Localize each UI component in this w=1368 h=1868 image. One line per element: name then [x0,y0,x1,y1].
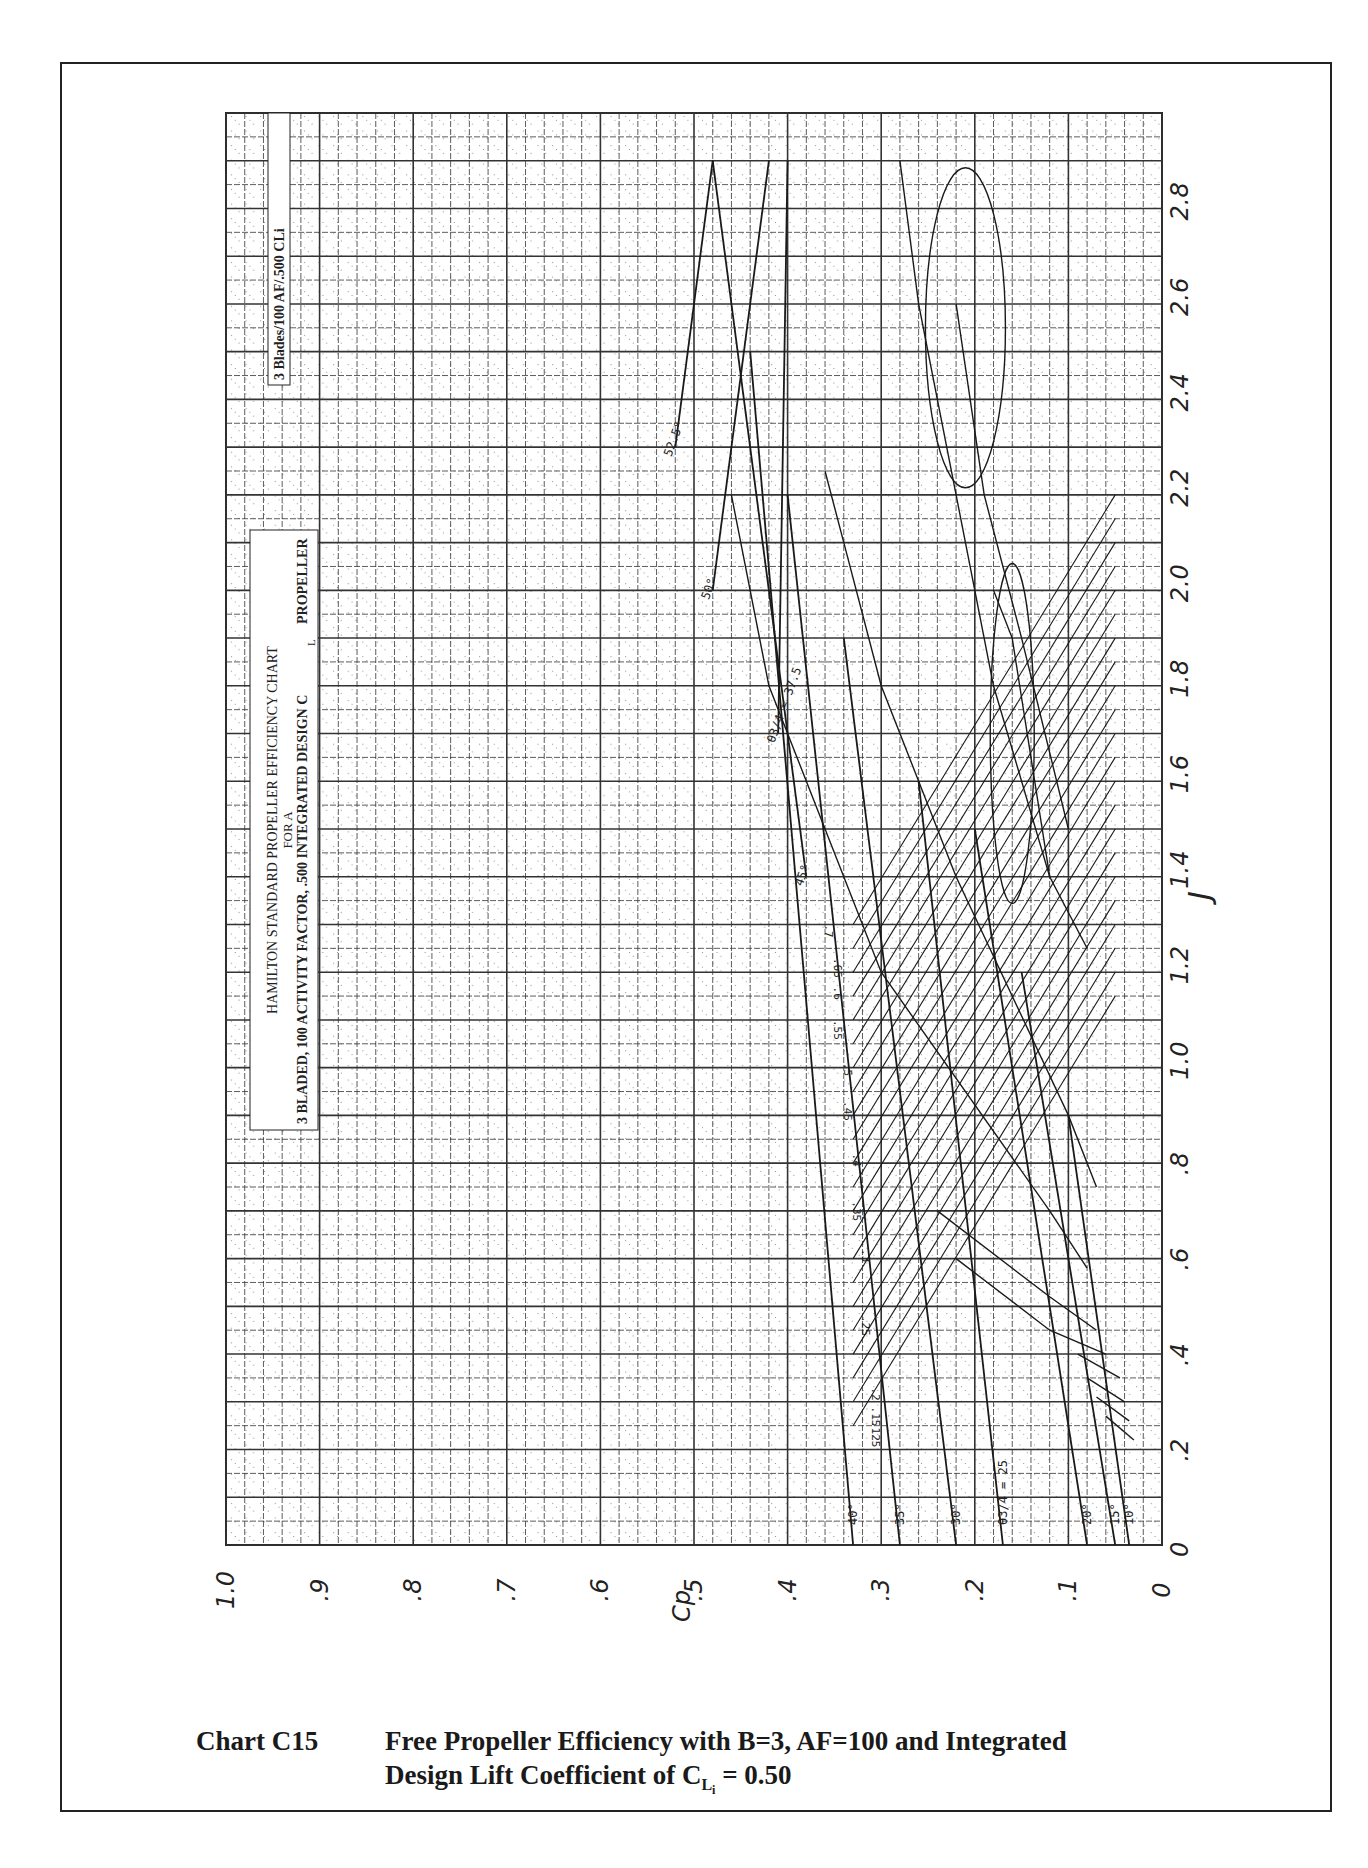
j-tick-label: 2.2 [1166,469,1194,507]
caption-line2: Design Lift Coefficient of CLi = 0.50 [385,1758,792,1808]
cp-tick-label: .7 [493,1578,521,1602]
chart-title-subscript: L [305,639,317,646]
eta-label: .25 [859,1316,872,1336]
chart-title-line1: HAMILTON STANDARD PROPELLER EFFICIENCY C… [265,646,280,1014]
cp-axis-label: Cp [668,1590,696,1622]
beta-label: 20° [1080,1503,1094,1525]
eta-label: .7 [822,924,835,937]
beta-label: 35° [893,1503,907,1525]
j-tick-label: 1.8 [1166,660,1194,698]
cp-tick-label: .9 [306,1579,334,1602]
efficiency-chart: HAMILTON STANDARD PROPELLER EFFICIENCY C… [0,0,1368,1868]
j-tick-label: 1.6 [1166,755,1194,793]
j-tick-label: 0 [1166,1542,1194,1557]
j-tick-label: .4 [1166,1343,1194,1366]
j-tick-label: 1.4 [1166,851,1194,889]
j-tick-label: 1.0 [1166,1041,1194,1079]
cp-tick-label: 0 [1148,1582,1176,1597]
grid-lines [226,113,1162,1545]
cp-tick-label: .2 [961,1579,989,1602]
eta-label: .35 [850,1201,863,1221]
eta-label: .5 [841,1063,854,1076]
eta-label: .6 [831,987,844,1000]
caption-number: Chart C15 [196,1724,318,1758]
eta-label: .4 [850,1154,863,1168]
j-axis-ticks: 0.2.4.6.81.01.21.41.61.82.02.22.42.62.8 [1166,182,1194,1557]
cp-tick-label: .8 [399,1579,427,1602]
beta-label: 40° [846,1503,860,1525]
beta-label: θ3/4 = 25 [996,1460,1010,1525]
j-tick-label: .2 [1166,1439,1194,1462]
cp-tick-label: .4 [774,1579,802,1602]
cp-tick-label: .1 [1054,1579,1082,1602]
svg-text:Cp: Cp [668,1590,696,1622]
eta-label: .3 [859,1249,872,1262]
j-tick-label: .6 [1166,1248,1194,1271]
chart-title-line3: 3 BLADED, 100 ACTIVITY FACTOR, .500 INTE… [295,695,310,1124]
j-axis-label: J [1182,891,1217,905]
chart-title-box: HAMILTON STANDARD PROPELLER EFFICIENCY C… [250,530,318,1130]
eta-label: .55 [831,1020,844,1040]
eta-label: .45 [841,1101,854,1121]
cp-tick-label: .3 [867,1579,895,1602]
eta-label: .15 [869,1407,882,1427]
beta-label: 10° [1122,1503,1136,1525]
eta-label: .2 [869,1387,882,1400]
beta-label: 30° [949,1503,963,1525]
j-tick-label: .8 [1166,1152,1194,1175]
svg-text:J: J [1182,891,1217,905]
j-tick-label: 1.2 [1166,946,1194,984]
eta-label: .65 [831,958,844,978]
corner-label: 3 Blades/100 AF/.500 CLi [268,113,290,385]
plot-area [226,113,1162,1545]
chart-title-line4: PROPELLER [295,538,310,624]
j-tick-label: 2.8 [1166,182,1194,220]
chart-title-line2: FOR A [280,811,295,849]
svg-text:3 Blades/100 AF/.500 CLi: 3 Blades/100 AF/.500 CLi [272,228,287,380]
j-tick-label: 2.6 [1166,278,1194,316]
beta-label: 15° [1108,1503,1122,1525]
cp-tick-label: .6 [586,1579,614,1602]
j-tick-label: 2.4 [1166,373,1194,411]
cp-tick-label: 1.0 [212,1571,240,1609]
j-tick-label: 2.0 [1166,564,1194,602]
caption-line1: Free Propeller Efficiency with B=3, AF=1… [385,1724,1067,1758]
